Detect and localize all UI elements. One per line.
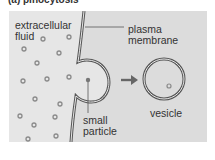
extracellular-particles bbox=[18, 35, 71, 141]
diagram-panel: extracellular fluid plasma membrane smal… bbox=[9, 11, 207, 142]
label-fluid: fluid bbox=[15, 31, 34, 42]
label-particle: particle bbox=[83, 126, 117, 137]
label-vesicle: vesicle bbox=[150, 108, 182, 119]
small-particle-dot bbox=[86, 78, 90, 82]
label-membrane: membrane bbox=[128, 35, 178, 46]
figure-heading: (a) pinocytosis bbox=[8, 0, 79, 5]
